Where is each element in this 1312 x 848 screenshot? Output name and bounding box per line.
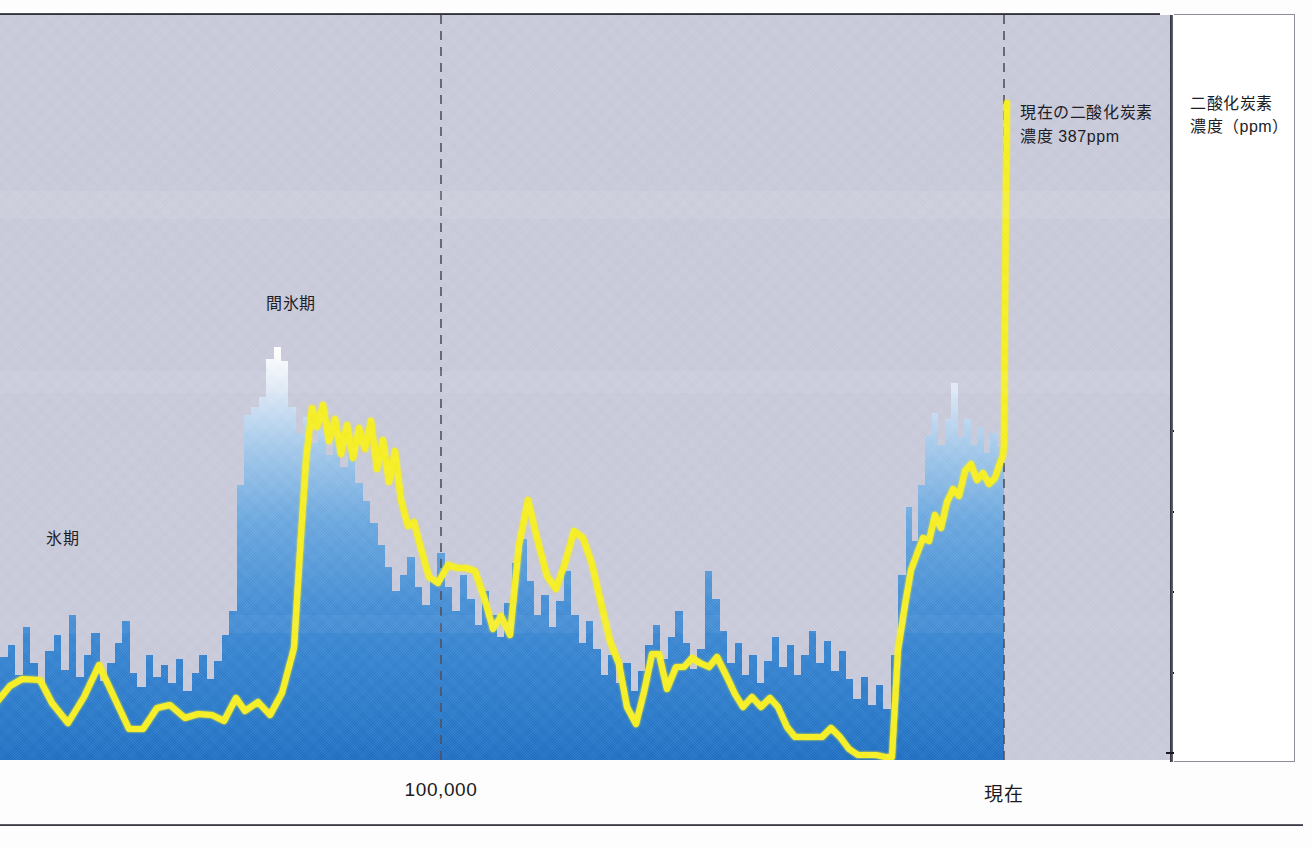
glacial-label: 氷期 <box>46 527 79 551</box>
present-co2-line1: 現在の二酸化炭素 <box>1020 101 1153 125</box>
chart-svg <box>0 15 1170 760</box>
y-axis-title-line2: 濃度（ppm） <box>1190 115 1300 138</box>
proxy-histogram <box>0 347 1004 760</box>
y-axis-title-line1: 二酸化炭素 <box>1190 92 1300 115</box>
present-co2-annotation: 現在の二酸化炭素 濃度 387ppm <box>1020 101 1153 149</box>
plot-area: 氷期 間氷期 現在の二酸化炭素 濃度 387ppm <box>0 15 1170 760</box>
interglacial-label: 間氷期 <box>266 292 316 316</box>
present-co2-line2: 濃度 387ppm <box>1020 125 1153 149</box>
x-tick-label-present: 現在 <box>984 779 1023 806</box>
y-axis-title: 二酸化炭素 濃度（ppm） <box>1190 92 1300 138</box>
bottom-rule <box>0 824 1303 826</box>
y-axis-spine <box>1170 15 1173 762</box>
chart-page: 氷期 間氷期 現在の二酸化炭素 濃度 387ppm 275 250 225 20… <box>0 0 1312 848</box>
x-tick-label-100000: 100,000 <box>405 779 478 801</box>
